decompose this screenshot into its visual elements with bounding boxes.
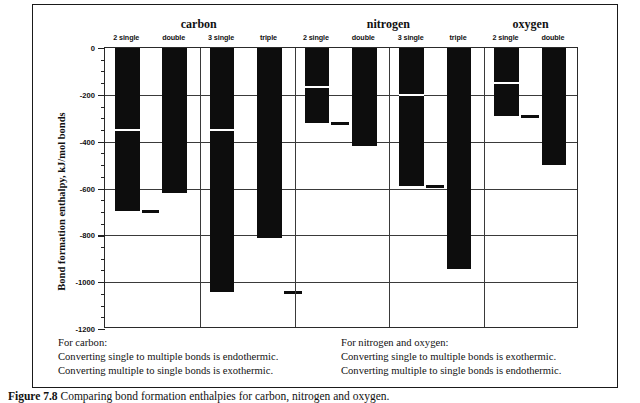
group-label-nitrogen: nitrogen: [328, 17, 448, 32]
notes-carbon-line1: Converting single to multiple bonds is e…: [58, 350, 333, 364]
y-tick-minor: [101, 247, 105, 248]
y-tick-minor: [101, 153, 105, 154]
y-tick-minor: [101, 60, 105, 61]
y-tick-major: [98, 189, 105, 190]
y-tick-minor: [101, 270, 105, 271]
figure-caption: Figure 7.8 Comparing bond formation enth…: [8, 390, 638, 403]
group-separator: [484, 48, 485, 327]
bar-split-line: [399, 94, 424, 96]
y-tick-label: 0: [91, 44, 95, 53]
y-tick-minor: [101, 83, 105, 84]
reference-marker: [142, 210, 160, 213]
y-tick-minor: [101, 200, 105, 201]
reference-marker: [521, 115, 539, 118]
y-tick-minor: [101, 71, 105, 72]
bar-split-line: [494, 82, 519, 84]
subgroup-separator: [389, 48, 390, 327]
reference-marker: [426, 185, 444, 188]
reference-marker: [284, 291, 302, 294]
y-tick-label: -1000: [76, 278, 95, 287]
reference-marker: [331, 122, 349, 125]
y-tick-minor: [101, 224, 105, 225]
y-axis-title: Bond formation enthalpy, kJ/mol bonds: [52, 88, 70, 314]
bar: [399, 48, 424, 186]
group-label-carbon: carbon: [139, 17, 259, 32]
y-tick-major: [98, 142, 105, 143]
y-axis-title-text: Bond formation enthalpy, kJ/mol bonds: [56, 112, 67, 290]
gridline: [105, 235, 577, 236]
y-tick-minor: [101, 118, 105, 119]
notes-nitrogen-oxygen: For nitrogen and oxygen: Converting sing…: [333, 332, 616, 384]
bar: [305, 48, 330, 123]
series-label-double: double: [523, 33, 583, 42]
subgroup-separator: [200, 48, 201, 327]
y-tick-minor: [101, 306, 105, 307]
y-tick-minor: [101, 294, 105, 295]
y-tick-minor: [101, 130, 105, 131]
notes-no-line2: Converting multiple to single bonds is e…: [341, 364, 616, 378]
notes-panel: For carbon: Converting single to multipl…: [34, 332, 616, 384]
y-tick-label: -400: [80, 137, 95, 146]
bar: [447, 48, 472, 269]
figure-caption-label: Figure 7.8: [8, 390, 58, 402]
y-tick-major: [98, 95, 105, 96]
bar: [257, 48, 282, 238]
group-label-oxygen: oxygen: [471, 17, 591, 32]
bar: [162, 48, 187, 193]
bar-split-line: [210, 129, 235, 131]
y-tick-label: -600: [80, 184, 95, 193]
bar: [352, 48, 377, 146]
notes-carbon-line2: Converting multiple to single bonds is e…: [58, 364, 333, 378]
y-tick-minor: [101, 259, 105, 260]
y-tick-major: [98, 329, 105, 330]
figure-caption-text: Comparing bond formation enthalpies for …: [61, 390, 390, 402]
y-tick-minor: [101, 212, 105, 213]
y-tick-label: -800: [80, 231, 95, 240]
group-separator: [295, 48, 296, 327]
y-tick-label: -200: [80, 90, 95, 99]
y-tick-minor: [101, 107, 105, 108]
y-tick-major: [98, 282, 105, 283]
notes-carbon: For carbon: Converting single to multipl…: [34, 332, 333, 384]
bar: [115, 48, 140, 211]
notes-no-heading: For nitrogen and oxygen:: [341, 336, 616, 350]
bar: [210, 48, 235, 292]
bar: [494, 48, 519, 116]
y-tick-major: [98, 48, 105, 49]
bar-split-line: [115, 129, 140, 131]
gridline: [105, 282, 577, 283]
y-tick-minor: [101, 317, 105, 318]
y-tick-major: [98, 235, 105, 236]
notes-carbon-heading: For carbon:: [58, 336, 333, 350]
bar: [542, 48, 567, 165]
plot-area: 0-200-400-600-800-1000-1200: [104, 47, 578, 328]
notes-no-line1: Converting single to multiple bonds is e…: [341, 350, 616, 364]
y-tick-minor: [101, 177, 105, 178]
y-tick-minor: [101, 165, 105, 166]
bar-split-line: [305, 86, 330, 88]
